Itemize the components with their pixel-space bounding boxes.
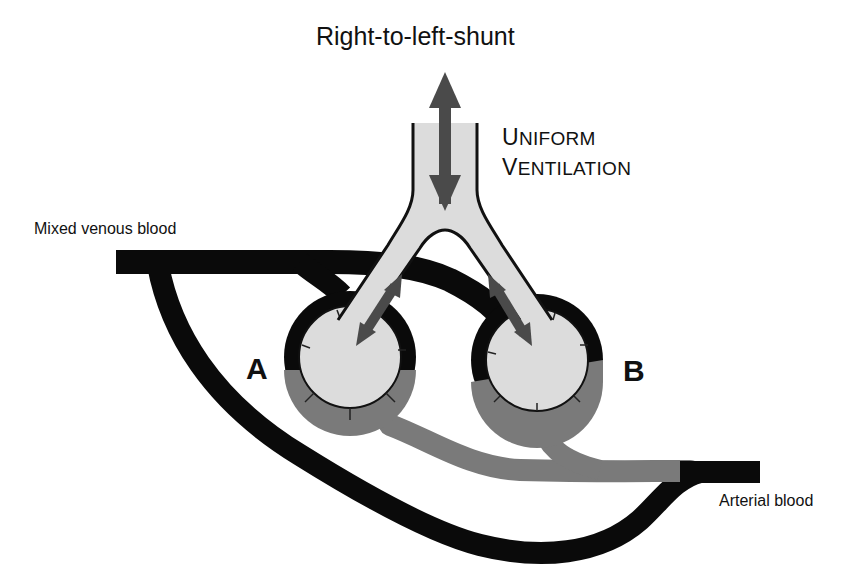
alveolus-b-label: B bbox=[623, 354, 645, 388]
ventilation-initial-v: V bbox=[502, 154, 518, 180]
ventilation-initial-u: U bbox=[502, 124, 519, 150]
ventilation-label-line2: VENTILATION bbox=[502, 154, 631, 181]
shunt-vessel bbox=[158, 265, 760, 553]
ventilation-rest-entilation: ENTILATION bbox=[518, 158, 632, 179]
arterial-blood-label: Arterial blood bbox=[719, 492, 813, 510]
shunt-diagram: Right-to-left-shunt UNIFORM VENTILATION … bbox=[0, 0, 867, 578]
mixed-venous-blood-label: Mixed venous blood bbox=[34, 220, 176, 238]
ventilation-rest-niform: NIFORM bbox=[519, 128, 596, 149]
alveolus-a-label: A bbox=[246, 352, 268, 386]
ventilation-label-line1: UNIFORM bbox=[502, 124, 596, 151]
diagram-title: Right-to-left-shunt bbox=[316, 22, 515, 51]
